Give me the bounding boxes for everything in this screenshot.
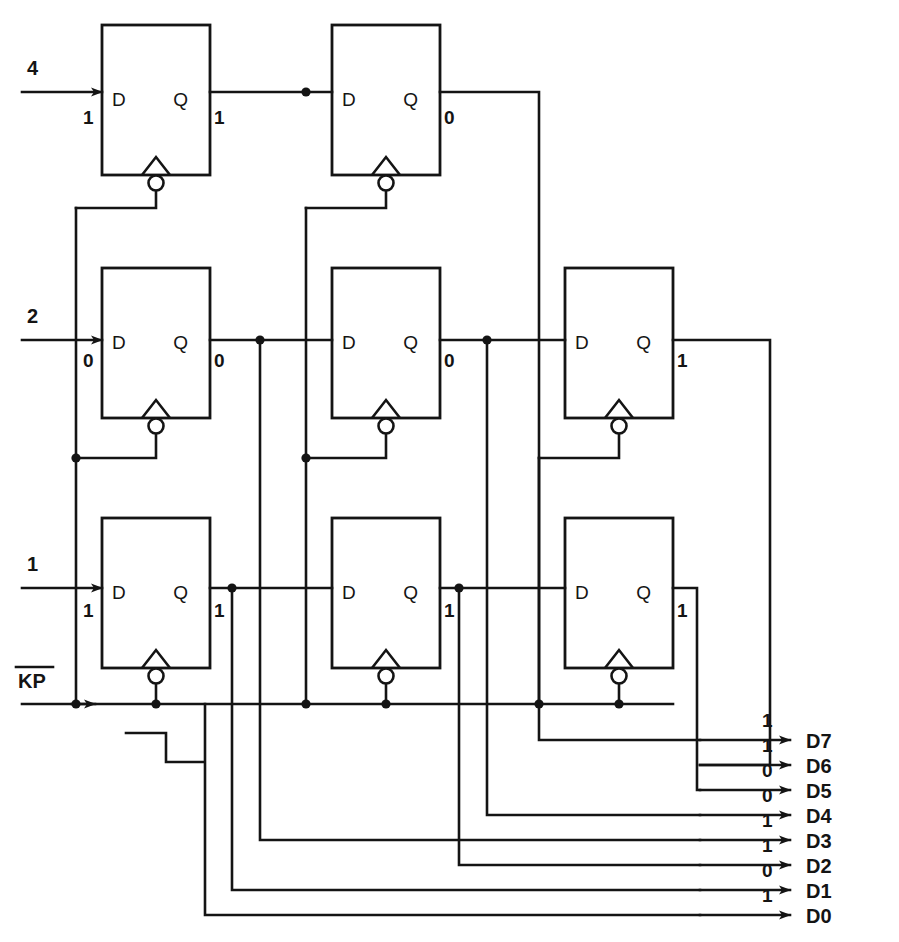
pin-label-q: Q xyxy=(636,332,651,353)
pin-label-q: Q xyxy=(173,582,188,603)
input-label-4: 4 xyxy=(27,57,39,79)
bit-q-r3c3: 1 xyxy=(677,600,688,621)
bit-d2: 1 xyxy=(762,835,773,856)
input-label-2: 2 xyxy=(27,305,38,327)
flipflop-r1c2: D Q xyxy=(332,25,440,191)
bit-q-r2c2: 0 xyxy=(444,350,455,371)
flipflop-r3c3: D Q xyxy=(565,518,673,684)
pin-label-q: Q xyxy=(403,582,418,603)
bit-q-r3c2: 1 xyxy=(444,600,455,621)
label-d6: D6 xyxy=(806,755,832,777)
bit-d6: 1 xyxy=(762,735,773,756)
wire-r1c2q-to-d7 xyxy=(440,92,700,740)
wire-r2c3q-to-d6 xyxy=(673,340,770,765)
bit-d7: 1 xyxy=(762,710,773,731)
pin-label-d: D xyxy=(112,332,126,353)
clk-branch-r2c3 xyxy=(539,434,619,458)
clk-branch-r1c2 xyxy=(306,191,386,208)
clk-branch-r2c1 xyxy=(76,434,156,458)
pin-label-q: Q xyxy=(173,89,188,110)
bit-d0: 1 xyxy=(762,885,773,906)
bit-q-r2c3: 1 xyxy=(677,350,688,371)
pin-label-d: D xyxy=(112,582,126,603)
pin-label-d: D xyxy=(575,332,589,353)
label-d3: D3 xyxy=(806,830,832,852)
pin-label-d: D xyxy=(342,332,356,353)
pin-label-d: D xyxy=(112,89,126,110)
flipflop-r3c2: D Q xyxy=(332,518,440,684)
label-d5: D5 xyxy=(806,780,832,802)
bit-q-r1c1: 1 xyxy=(214,107,225,128)
wire-tap-d4 xyxy=(487,340,700,815)
bit-q-r1c2: 0 xyxy=(444,107,455,128)
wire-tap-d0 xyxy=(205,704,700,915)
bit-q-r3c1: 1 xyxy=(214,600,225,621)
label-d4: D4 xyxy=(806,805,832,827)
flipflop-r2c2: D Q xyxy=(332,268,440,434)
label-d1: D1 xyxy=(806,880,832,902)
bit-d3: 1 xyxy=(762,810,773,831)
pin-label-d: D xyxy=(342,89,356,110)
label-d2: D2 xyxy=(806,855,832,877)
label-d0: D0 xyxy=(806,905,832,927)
pin-label-q: Q xyxy=(173,332,188,353)
bit-d5: 0 xyxy=(762,760,773,781)
flipflop-r1c1: D Q xyxy=(102,25,210,191)
falling-edge-symbol xyxy=(126,733,203,762)
bit-q-r2c1: 0 xyxy=(214,350,225,371)
pin-label-d: D xyxy=(342,582,356,603)
bit-d-r2c1: 0 xyxy=(83,350,94,371)
wire-tap-d3 xyxy=(260,340,700,840)
bit-d-r3c1: 1 xyxy=(83,600,94,621)
pin-label-q: Q xyxy=(403,89,418,110)
bit-d1: 0 xyxy=(762,860,773,881)
input-label-1: 1 xyxy=(27,553,38,575)
flipflop-r2c3: D Q xyxy=(565,268,673,434)
flipflop-r2c1: D Q xyxy=(102,268,210,434)
pin-label-q: Q xyxy=(636,582,651,603)
label-d7: D7 xyxy=(806,730,832,752)
bit-d4: 0 xyxy=(762,785,773,806)
clk-branch-r2c2 xyxy=(306,434,386,458)
bit-d-r1c1: 1 xyxy=(83,107,94,128)
pin-label-d: D xyxy=(575,582,589,603)
wire-tap-d2 xyxy=(459,588,700,865)
schematic-sheet: D Q 1 1 D Q 0 D Q 0 0 D Q 0 D Q 1 xyxy=(0,0,899,942)
clk-branch-r1c1 xyxy=(76,191,156,208)
clock-label-kp: KP xyxy=(16,667,53,692)
flipflop-r3c1: D Q xyxy=(102,518,210,684)
svg-text:KP: KP xyxy=(18,670,46,692)
pin-label-q: Q xyxy=(403,332,418,353)
